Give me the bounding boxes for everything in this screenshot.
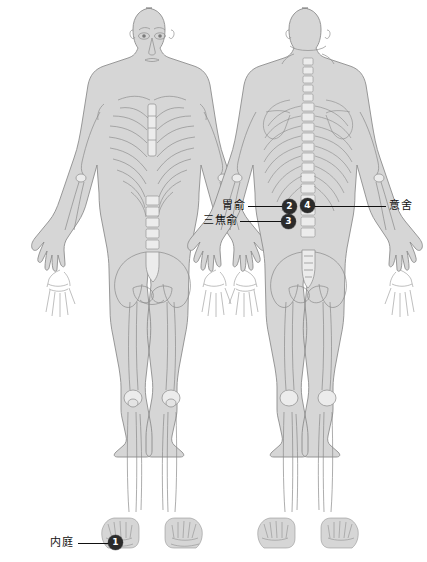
label-sanjiaoshu: 三焦俞 (203, 215, 238, 226)
leader-line-neiting (78, 543, 111, 544)
point-marker-1[interactable]: 1 (108, 535, 123, 550)
leader-line-sanjiaoshu (240, 221, 286, 222)
point-marker-3[interactable]: 3 (281, 214, 296, 229)
anatomy-illustration (0, 0, 427, 562)
label-weishu: 胃俞 (222, 200, 245, 211)
point-marker-2[interactable]: 2 (282, 199, 297, 214)
label-neiting: 内庭 (50, 537, 73, 548)
figure-anterior (32, 8, 267, 548)
label-yishe: 意舍 (389, 200, 412, 211)
acupuncture-chart: 胃俞 2 三焦俞 3 意舍 4 内庭 1 (0, 0, 427, 562)
figure-posterior (188, 8, 423, 548)
leader-line-weishu (248, 206, 286, 207)
point-marker-4[interactable]: 4 (300, 198, 315, 213)
leader-line-yishe (313, 206, 386, 207)
